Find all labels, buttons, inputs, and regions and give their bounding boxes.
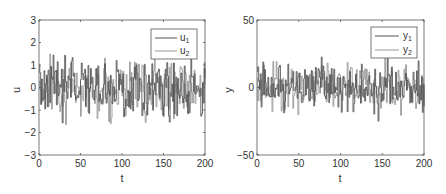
- svg-text:3: 3: [30, 15, 36, 26]
- svg-text:2: 2: [30, 37, 36, 48]
- svg-text:150: 150: [155, 158, 172, 169]
- svg-text:−2: −2: [25, 127, 37, 138]
- figure: 0501001502003210−1−2−3 u t u1 u2 0501001…: [0, 0, 446, 194]
- svg-text:−1: −1: [25, 105, 37, 116]
- svg-text:200: 200: [197, 158, 214, 169]
- svg-text:100: 100: [332, 158, 349, 169]
- left-plot: 0501001502003210−1−2−3 u t u1 u2: [10, 15, 214, 185]
- svg-text:50: 50: [243, 15, 255, 26]
- svg-text:−3: −3: [25, 150, 37, 161]
- svg-text:100: 100: [114, 158, 131, 169]
- svg-text:0: 0: [36, 158, 42, 169]
- right-xlabel: t: [338, 172, 341, 184]
- svg-text:0: 0: [30, 82, 36, 93]
- left-series: [39, 51, 205, 125]
- left-ylabel: u: [10, 87, 22, 93]
- right-plot: 050100150200500−50 y t y1 y2: [222, 15, 433, 185]
- svg-text:0: 0: [254, 158, 260, 169]
- svg-text:0: 0: [248, 82, 254, 93]
- right-legend: y1 y2: [371, 27, 417, 58]
- svg-text:50: 50: [75, 158, 87, 169]
- svg-text:50: 50: [293, 158, 305, 169]
- svg-text:150: 150: [374, 158, 391, 169]
- right-ylabel: y: [222, 87, 234, 93]
- left-xlabel: t: [120, 172, 123, 184]
- svg-text:1: 1: [30, 60, 36, 71]
- svg-text:−50: −50: [237, 150, 254, 161]
- right-series: [257, 57, 424, 121]
- svg-text:200: 200: [416, 158, 433, 169]
- left-legend: u1 u2: [151, 29, 197, 59]
